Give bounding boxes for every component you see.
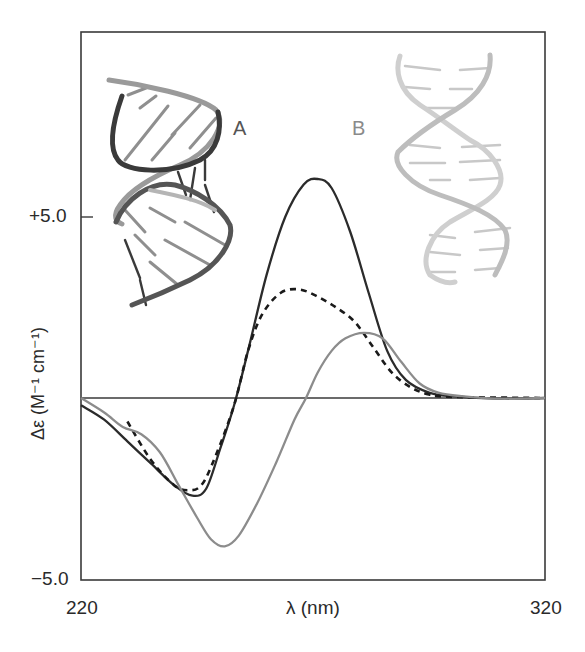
x-tick-label-right: 320 [530,597,562,619]
a-form-helix-icon [109,80,231,305]
b-form-helix-icon [397,55,510,283]
cd-spectrum-chart [0,0,585,652]
y-tick-label-bottom: −5.0 [31,568,69,590]
annotation-b-label: B [352,117,365,140]
x-axis-label: λ (nm) [286,597,340,619]
a-form-curve [81,179,545,496]
annotation-a-label: A [233,117,246,140]
x-tick-label-left: 220 [66,597,98,619]
plot-frame [81,32,545,580]
b-form-curve [81,333,545,547]
y-axis-label: Δε (M⁻¹ cm⁻¹) [27,327,49,440]
y-tick-label-top: +5.0 [29,205,67,227]
intermediate-dashed-curve [127,289,545,490]
